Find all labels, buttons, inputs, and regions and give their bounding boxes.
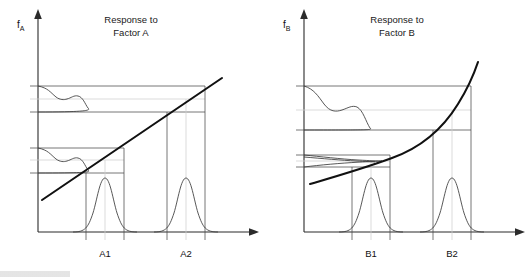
panel-b-title-line1: Response to xyxy=(370,14,423,25)
panel-a-y-axis xyxy=(34,9,42,232)
panel-b-y-axis-label: fB xyxy=(283,19,291,32)
panel-b-output-dist-upper xyxy=(304,86,371,130)
panel-a-output-band-lower xyxy=(30,148,124,173)
panel-b: fB Response to Factor B xyxy=(283,9,525,259)
panel-b-title-line2: Factor B xyxy=(379,27,415,38)
panel-a-response-line xyxy=(42,78,222,200)
panel-a-xtick-a2: A2 xyxy=(180,248,192,259)
panel-a-y-axis-label: fA xyxy=(17,19,25,32)
panel-a-output-dist-lower xyxy=(38,148,89,173)
panel-b-xtick-b1: B1 xyxy=(365,248,377,259)
footer-artifact-strip xyxy=(0,271,120,277)
panel-b-y-axis xyxy=(300,9,308,232)
panel-b-xtick-b2: B2 xyxy=(446,248,458,259)
panel-a-title-line1: Response to xyxy=(104,14,157,25)
panel-b-x-axis xyxy=(304,228,525,236)
panel-a-x-axis xyxy=(38,228,259,236)
response-factor-diagram: fA Response to Factor A xyxy=(0,0,532,277)
panel-a-xtick-a1: A1 xyxy=(99,248,111,259)
panel-a: fA Response to Factor A xyxy=(17,9,259,259)
panel-b-response-curve xyxy=(310,62,478,184)
panel-b-input-band-b1 xyxy=(352,155,390,240)
panel-a-input-band-a1 xyxy=(86,148,124,240)
panel-a-title-line2: Factor A xyxy=(113,27,149,38)
